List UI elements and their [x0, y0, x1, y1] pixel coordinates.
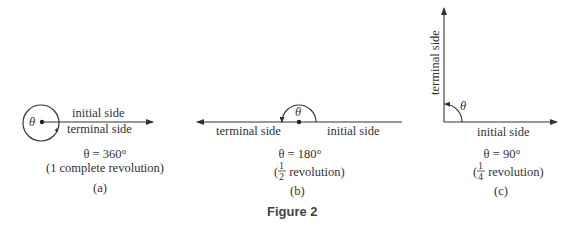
panel-c: θ terminal side initial side θ = 90° ( 1… — [428, 8, 557, 198]
panel-tag: (a) — [93, 181, 107, 195]
panel-tag: (b) — [290, 184, 305, 198]
terminal-side-label: terminal side — [67, 122, 132, 136]
initial-side-label: initial side — [477, 125, 530, 139]
figure-2-diagram: θ initial side terminal side θ = 360° (1… — [0, 0, 581, 229]
angle-equation: θ = 360° — [83, 147, 126, 161]
desc-open-paren: ( — [274, 165, 278, 179]
angle-description: revolution) — [485, 165, 544, 179]
angle-description: (1 complete revolution) — [46, 161, 164, 175]
terminal-side-label: terminal side — [216, 124, 281, 138]
theta-label: θ — [460, 99, 466, 113]
desc-open-paren: ( — [473, 165, 477, 179]
theta-label: θ — [295, 105, 301, 119]
theta-label: θ — [29, 115, 35, 129]
panel-tag: (c) — [494, 184, 508, 198]
fraction-numerator: 1 — [279, 160, 284, 171]
fraction-numerator: 1 — [478, 160, 483, 171]
fraction-denominator: 4 — [478, 171, 483, 182]
vertex-point — [297, 120, 301, 124]
fraction-denominator: 2 — [279, 171, 284, 182]
initial-side-label: initial side — [327, 124, 380, 138]
figure-caption: Figure 2 — [267, 204, 318, 219]
terminal-side-label: terminal side — [428, 30, 442, 95]
angle-equation: θ = 180° — [278, 147, 321, 161]
panel-b: θ terminal side initial side θ = 180° ( … — [197, 105, 402, 219]
initial-side-label: initial side — [72, 106, 125, 120]
angle-description: revolution) — [286, 165, 345, 179]
panel-a: θ initial side terminal side θ = 360° (1… — [23, 105, 164, 195]
angle-equation: θ = 90° — [484, 147, 521, 161]
